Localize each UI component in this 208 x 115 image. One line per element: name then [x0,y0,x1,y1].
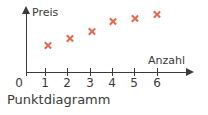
data-point-4 [109,17,118,26]
data-point-5 [131,14,140,23]
figure-caption: Punktdiagramm [7,92,110,108]
x-axis-title: Anzahl [148,54,185,67]
x-axis-tick-2 [67,68,68,77]
x-axis-tick-5 [134,68,135,77]
data-point-2 [65,34,74,43]
y-axis-line [26,13,27,72]
x-axis-tick-3 [90,68,91,77]
x-axis-tick-label-5: 5 [124,76,144,90]
data-point-1 [43,41,52,50]
point-diagram-figure: Preis Anzahl 0 1 2 3 4 5 6 Punktdiagramm [0,0,208,115]
x-axis-tick-label-4: 4 [102,76,122,90]
data-point-3 [87,27,96,36]
y-axis-arrow-icon [22,6,30,14]
x-axis-tick-label-6: 6 [147,76,167,90]
data-point-6 [152,10,161,19]
x-axis-arrow-icon [186,68,194,76]
x-axis-tick-1 [45,68,46,77]
x-axis-tick-label-0: 0 [9,76,29,90]
x-axis-line [26,72,188,73]
x-axis-tick-6 [157,68,158,77]
x-axis-tick-label-3: 3 [80,76,100,90]
x-axis-tick-4 [112,68,113,77]
x-axis-tick-label-2: 2 [57,76,77,90]
y-axis-title: Preis [32,6,58,19]
x-axis-tick-label-1: 1 [35,76,55,90]
x-axis-tick-0 [26,68,27,77]
